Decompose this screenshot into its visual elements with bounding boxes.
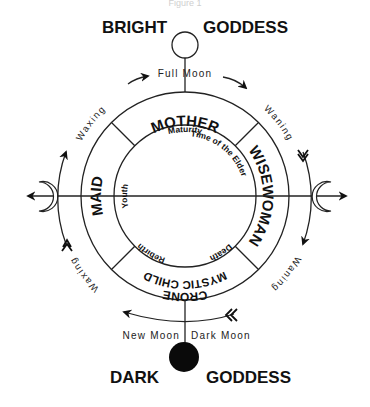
new-moon-label: New Moon (123, 330, 180, 341)
dark-moon-icon (169, 342, 199, 372)
waning-arrow-top-icon (223, 77, 246, 88)
rebirth-label: Rebirth (135, 241, 166, 265)
goddess-bottom-label: GODDESS (206, 368, 291, 387)
waxing-lower-label: Waxing (66, 255, 100, 295)
bright-label: BRIGHT (102, 18, 168, 37)
triple-goddess-wheel-diagram: Figure 1 BRIGHT GODDESS Full Moon MOTHER… (0, 0, 370, 407)
right-arc-arrow-icon (303, 152, 311, 244)
left-arc-arrow-icon (58, 152, 66, 244)
dark-label: DARK (110, 368, 160, 387)
dark-moon-label: Dark Moon (191, 330, 251, 341)
spoke-upper-right (235, 123, 258, 146)
goddess-top-label: GODDESS (203, 18, 288, 37)
cropped-caption: Figure 1 (168, 0, 201, 8)
full-moon-icon (172, 32, 198, 58)
waxing-upper-label: Waxing (74, 103, 108, 143)
waning-upper-label: Waning (262, 103, 297, 143)
spoke-lower-right (235, 246, 258, 269)
spoke-upper-left (112, 123, 135, 146)
youth-label: Youth (119, 183, 130, 209)
waxing-arrow-top-icon (128, 76, 148, 84)
full-moon-label: Full Moon (158, 68, 213, 79)
spoke-lower-left (112, 246, 135, 269)
waning-lower-label: Waning (269, 255, 304, 295)
time-of-the-elder-label: Time of the Elder (190, 128, 249, 178)
mystic-child-label: MYSTIC CHILD (141, 270, 228, 291)
bottom-arc-fletching-icon (226, 309, 237, 321)
left-arc-fletching-icon (62, 240, 72, 251)
bottom-arc-arrow-icon (124, 312, 234, 322)
right-arc-fletching-icon (298, 150, 308, 161)
death-label: Death (208, 242, 234, 263)
